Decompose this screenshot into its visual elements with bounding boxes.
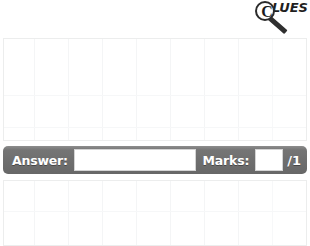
- worksheet-page: LUES C Answer: Marks: /1: [0, 0, 310, 246]
- clues-logo: LUES C: [252, 0, 310, 36]
- grid-vline: [102, 39, 103, 140]
- grid-lines: [4, 39, 306, 140]
- logo-wordmark: LUES: [272, 0, 308, 15]
- answer-label: Answer:: [12, 153, 68, 168]
- grid-vline: [170, 181, 171, 245]
- grid-vline: [102, 181, 103, 245]
- marks-input[interactable]: [255, 149, 283, 171]
- magnifier-lens-icon: C: [255, 1, 275, 21]
- grid-vline: [68, 181, 69, 245]
- marks-total: /1: [287, 153, 301, 168]
- next-question-workspace-panel: [3, 180, 307, 246]
- grid-hline: [4, 127, 306, 128]
- grid-vline: [238, 39, 239, 140]
- grid-hline: [4, 95, 306, 96]
- grid-vline: [68, 39, 69, 140]
- question-workspace-panel: [3, 38, 307, 141]
- grid-vline: [136, 181, 137, 245]
- answer-bar: Answer: Marks: /1: [3, 146, 307, 174]
- grid-vline: [238, 181, 239, 245]
- grid-vline: [272, 181, 273, 245]
- grid-vline: [34, 39, 35, 140]
- grid-hline: [4, 211, 306, 212]
- grid-vline: [170, 39, 171, 140]
- grid-vline: [204, 39, 205, 140]
- logo-letter-c: C: [257, 2, 277, 22]
- grid-vline: [204, 181, 205, 245]
- grid-vline: [272, 39, 273, 140]
- answer-input[interactable]: [74, 149, 196, 171]
- marks-label: Marks:: [203, 153, 250, 168]
- grid-lines: [4, 181, 306, 245]
- grid-vline: [136, 39, 137, 140]
- grid-vline: [34, 181, 35, 245]
